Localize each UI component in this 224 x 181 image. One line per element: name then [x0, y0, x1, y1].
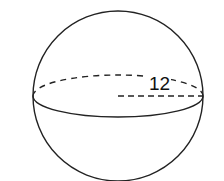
equator-front: [33, 96, 203, 117]
sphere-diagram: 12: [0, 0, 224, 181]
radius-label: 12: [149, 73, 170, 94]
sphere-figure: 12: [0, 0, 224, 181]
equator-back-dashed: [33, 75, 203, 96]
